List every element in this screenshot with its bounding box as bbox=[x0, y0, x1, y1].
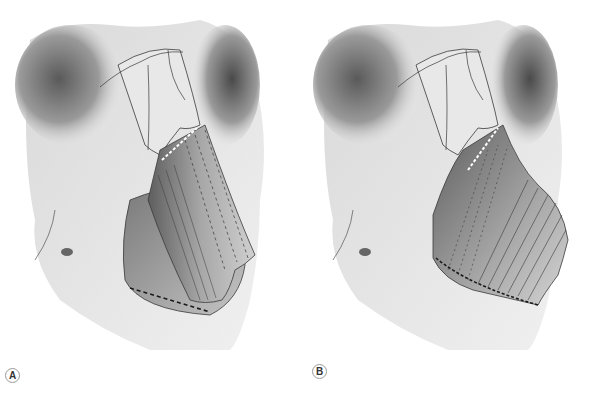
panel-label-b: B bbox=[312, 364, 327, 379]
nasal-skeleton-illustration-b bbox=[298, 0, 595, 398]
figure-panel-b: B bbox=[298, 0, 595, 398]
panel-label-a: A bbox=[5, 368, 20, 383]
nasal-skeleton-illustration-a bbox=[0, 0, 297, 398]
figure-panel-a: A bbox=[0, 0, 297, 398]
